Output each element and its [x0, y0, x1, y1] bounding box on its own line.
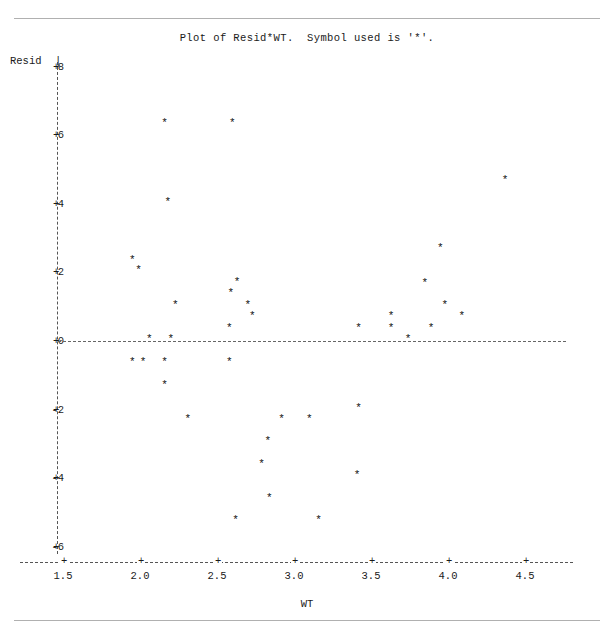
scatter-point: * — [231, 515, 239, 526]
scatter-point: * — [228, 118, 236, 129]
x-axis-tick-label: 4.5 — [516, 570, 535, 582]
scatter-point: * — [458, 311, 466, 322]
scatter-point: * — [227, 288, 235, 299]
scatter-point: * — [171, 300, 179, 311]
x-axis-tick-mark: + — [291, 556, 299, 566]
scatter-point: * — [404, 334, 412, 345]
scatter-point: * — [355, 403, 363, 414]
scatter-point: * — [233, 277, 241, 288]
scatter-point: * — [387, 323, 395, 334]
scatter-point: * — [278, 414, 286, 425]
y-axis-tick-mark: + — [53, 199, 59, 209]
scatter-point: * — [421, 278, 429, 289]
x-axis-tick-label: 4.0 — [439, 570, 458, 582]
scatter-point: * — [161, 380, 169, 391]
scatter-point: * — [145, 334, 153, 345]
scatter-point: * — [501, 175, 509, 186]
scatter-point: * — [167, 334, 175, 345]
scatter-point: * — [161, 357, 169, 368]
scatter-point: * — [248, 311, 256, 322]
scatter-point: * — [264, 436, 272, 447]
scatter-point: * — [225, 323, 233, 334]
y-axis-tick-mark: + — [53, 542, 59, 552]
x-axis-tick-mark: + — [522, 556, 530, 566]
x-axis-tick-label: 3.0 — [285, 570, 304, 582]
scatter-point: * — [355, 323, 363, 334]
y-axis-tick-mark: + — [53, 62, 59, 72]
x-axis-tick-mark: + — [445, 556, 453, 566]
x-axis-tick-mark: + — [137, 556, 145, 566]
scatter-point: * — [184, 414, 192, 425]
scatter-point: * — [305, 414, 313, 425]
y-axis-tick-mark: + — [53, 405, 59, 415]
scatter-point: * — [436, 243, 444, 254]
x-axis-tick-label: 2.5 — [208, 570, 227, 582]
scatter-point: * — [139, 357, 147, 368]
x-axis-tick-label: 1.5 — [54, 570, 73, 582]
scatter-point: * — [225, 357, 233, 368]
x-axis-tick-mark: + — [368, 556, 376, 566]
scatter-point: * — [353, 470, 361, 481]
x-axis-tick-label: 3.5 — [362, 570, 381, 582]
y-axis-tick-mark: + — [53, 130, 59, 140]
scatter-point: * — [128, 357, 136, 368]
scatter-point: * — [427, 323, 435, 334]
scatter-point: * — [387, 311, 395, 322]
scatter-point: * — [164, 197, 172, 208]
scatter-point: * — [258, 459, 266, 470]
scatter-point: * — [315, 515, 323, 526]
y-axis-tick-mark: + — [53, 473, 59, 483]
scatter-point: * — [134, 265, 142, 276]
scatter-point: * — [161, 118, 169, 129]
scatter-point: * — [265, 493, 273, 504]
x-axis-caption: WT — [0, 598, 614, 610]
y-axis-tick-mark: + — [53, 267, 59, 277]
zero-reference-line — [58, 341, 566, 342]
x-axis-tick-mark: + — [60, 556, 68, 566]
scatter-point: * — [441, 300, 449, 311]
x-axis-tick-mark: + — [214, 556, 222, 566]
plot-area: Resid | 8+6+4+2+0+-2+-4+-6+ +1.5+2.0+2.5… — [0, 0, 614, 639]
x-axis-tick-label: 2.0 — [131, 570, 150, 582]
